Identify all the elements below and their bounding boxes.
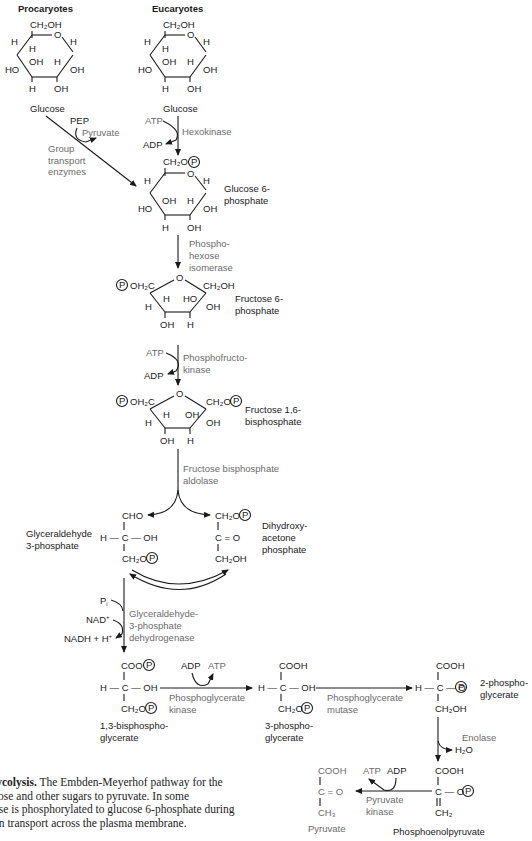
- svg-text:COOH: COOH: [435, 765, 464, 776]
- svg-text:O: O: [176, 272, 183, 283]
- svg-text:COOH: COOH: [279, 660, 308, 671]
- pg-2-label-1: 2-phospho-: [480, 677, 528, 688]
- enolase-label: Enolase: [462, 732, 496, 743]
- svg-text:OH: OH: [203, 64, 217, 75]
- procaryote-glucose-label: Glucose: [30, 103, 65, 114]
- pg-3-label-2: glycerate: [265, 732, 304, 743]
- svg-text:CH₂OH: CH₂OH: [203, 280, 235, 291]
- pi-label: Pi: [100, 595, 108, 607]
- svg-text:O: O: [187, 29, 194, 40]
- svg-text:HO: HO: [138, 203, 152, 214]
- figure-caption: lycolysis. The Embden-Meyerhof pathway f…: [0, 776, 330, 830]
- svg-text:H: H: [145, 301, 152, 312]
- svg-text:H — C — OH: H — C — OH: [100, 532, 158, 543]
- svg-text:P: P: [242, 509, 248, 520]
- caption-line-3: ose is phosphorylated to glucose 6-phosp…: [0, 803, 330, 817]
- svg-text:P: P: [119, 279, 125, 290]
- svg-text:CH₂O: CH₂O: [206, 396, 231, 407]
- group-transport-label-1: Group: [48, 143, 74, 154]
- svg-text:OH: OH: [185, 409, 199, 420]
- svg-text:P: P: [304, 702, 310, 713]
- svg-text:H: H: [187, 56, 194, 67]
- svg-text:H: H: [187, 319, 194, 330]
- caption-line-2: cose and other sugars to pyruvate. In so…: [0, 790, 330, 804]
- pk-atp-label: ATP: [363, 765, 381, 776]
- svg-text:O: O: [54, 29, 61, 40]
- svg-text:CH₂O: CH₂O: [215, 510, 240, 521]
- svg-text:H — C — OH: H — C — OH: [100, 682, 158, 693]
- pg-3-label-1: 3-phospho-: [265, 720, 313, 731]
- pfk-atp-label: ATP: [146, 347, 164, 358]
- svg-text:P: P: [191, 156, 197, 167]
- isomerase-label-1: Phospho-: [189, 238, 230, 249]
- svg-text:O: O: [187, 168, 194, 179]
- svg-text:OH: OH: [187, 222, 201, 233]
- glycolysis-diagram: Procaryotes Eucaryotes CH₂OH O H H H HO …: [0, 0, 532, 841]
- pgm-label-1: Phosphoglycerate: [327, 692, 403, 703]
- svg-text:CH₂O: CH₂O: [163, 156, 188, 167]
- svg-text:P: P: [233, 395, 239, 406]
- svg-text:H: H: [187, 195, 194, 206]
- svg-text:O: O: [176, 388, 183, 399]
- pyruvate-byproduct-label: Pyruvate: [82, 127, 120, 138]
- svg-text:H: H: [11, 36, 18, 47]
- fructose-6-phosphate-label-1: Fructose 6-: [235, 293, 283, 304]
- svg-text:OH: OH: [162, 195, 176, 206]
- svg-text:CH₂O: CH₂O: [122, 553, 147, 564]
- aldolase-label-1: Fructose bisphosphate: [183, 463, 279, 474]
- aldolase-to-dhap-arrow: [178, 490, 210, 515]
- fructose-6-phosphate-structure: P OH₂C O CH₂OH H H HO OH OH H: [117, 272, 235, 330]
- gapdh-label-3: dehydrogenase: [129, 632, 195, 643]
- svg-text:CH₂: CH₂: [435, 807, 453, 818]
- pgk-adp-atp-curve: [192, 673, 213, 686]
- dhap-label-2: acetone: [262, 532, 296, 543]
- svg-text:OH₂C: OH₂C: [130, 396, 155, 407]
- pk-adp-atp-curve: [369, 778, 396, 791]
- hexokinase-label: Hexokinase: [182, 126, 232, 137]
- svg-text:OH: OH: [54, 83, 68, 94]
- pgk-label-1: Phosphoglycerate: [169, 692, 245, 703]
- svg-text:C = O: C = O: [215, 532, 240, 543]
- svg-text:HO: HO: [5, 64, 19, 75]
- svg-text:H: H: [203, 175, 210, 186]
- nad-nadh-curve: [113, 620, 123, 638]
- isomerase-label-2: hexose: [189, 250, 220, 261]
- svg-text:H: H: [203, 36, 210, 47]
- gap-label-2: 3-phosphate: [26, 540, 79, 551]
- pfk-label-2: kinase: [183, 364, 210, 375]
- svg-text:P: P: [465, 785, 471, 796]
- bpg-1-3-structure: COO P H — C — OH CH₂O P: [100, 659, 158, 714]
- svg-text:H: H: [145, 417, 152, 428]
- svg-text:P: P: [148, 702, 154, 713]
- pgk-atp-label: ATP: [208, 660, 226, 671]
- svg-text:HO: HO: [183, 293, 197, 304]
- svg-text:OH: OH: [29, 56, 43, 67]
- hexokinase-adp-label: ADP: [143, 139, 163, 150]
- pep-structure: COOH C — O P CH₂: [435, 765, 474, 818]
- svg-text:H: H: [162, 43, 169, 54]
- gap-to-dhap-arrow: [132, 570, 228, 584]
- isomerase-label-3: isomerase: [189, 262, 233, 273]
- pi-curve: [111, 600, 123, 611]
- svg-text:H: H: [54, 56, 61, 67]
- caption-line-1: lycolysis. The Embden-Meyerhof pathway f…: [0, 776, 330, 790]
- svg-text:P: P: [146, 659, 152, 670]
- pk-label-1: Pyruvate: [366, 794, 404, 805]
- aldolase-to-gap-arrow: [148, 490, 178, 515]
- svg-text:CH₂O: CH₂O: [121, 703, 146, 714]
- svg-text:P: P: [458, 681, 464, 692]
- svg-text:HO: HO: [138, 64, 152, 75]
- svg-text:H: H: [70, 36, 77, 47]
- fructose-6-phosphate-label-2: phosphate: [235, 305, 279, 316]
- caption-line-4: on transport across the plasma membrane.: [0, 817, 330, 831]
- pgm-label-2: mutase: [327, 704, 358, 715]
- nad-label: NAD+: [86, 614, 110, 625]
- svg-text:H: H: [162, 222, 169, 233]
- svg-text:P: P: [119, 395, 125, 406]
- h2o-curve: [438, 741, 452, 750]
- svg-text:H: H: [29, 83, 36, 94]
- svg-text:H: H: [29, 43, 36, 54]
- dhap-structure: CH₂O P C = O CH₂OH: [215, 509, 251, 564]
- pfk-adp-label: ADP: [144, 370, 164, 381]
- svg-text:OH: OH: [203, 203, 217, 214]
